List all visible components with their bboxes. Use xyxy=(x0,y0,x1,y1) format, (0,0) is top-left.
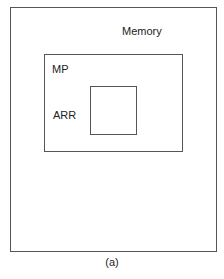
figure-caption: (a) xyxy=(0,256,224,268)
arr-label: ARR xyxy=(53,109,76,121)
memory-label: Memory xyxy=(122,25,162,37)
arr-box xyxy=(90,86,137,135)
mp-label: MP xyxy=(52,63,69,75)
